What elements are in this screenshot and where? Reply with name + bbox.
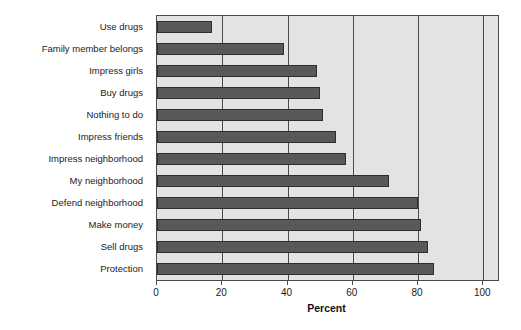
- bar-row: [157, 236, 498, 258]
- bar: [157, 43, 284, 55]
- bar-row: [157, 82, 498, 104]
- bar-chart-figure: Use drugsFamily member belongsImpress gi…: [0, 0, 521, 330]
- category-label: My neighborhood: [0, 169, 150, 191]
- bar-row: [157, 60, 498, 82]
- tick-mark: [287, 280, 288, 285]
- category-label: Buy drugs: [0, 81, 150, 103]
- category-label: Use drugs: [0, 15, 150, 37]
- bar: [157, 131, 336, 143]
- bar-row: [157, 192, 498, 214]
- category-label: Impress neighborhood: [0, 147, 150, 169]
- bar-row: [157, 16, 498, 38]
- tick-label: 20: [216, 287, 227, 298]
- tick-mark: [221, 280, 222, 285]
- tick-label: 40: [281, 287, 292, 298]
- bar: [157, 21, 212, 33]
- tick-mark: [482, 280, 483, 285]
- bar-row: [157, 126, 498, 148]
- bar-row: [157, 148, 498, 170]
- tick-label: 100: [474, 287, 491, 298]
- category-label: Family member belongs: [0, 37, 150, 59]
- category-label: Nothing to do: [0, 103, 150, 125]
- category-label: Impress girls: [0, 59, 150, 81]
- plot-area: [156, 15, 499, 281]
- bar: [157, 219, 421, 231]
- tick-label: 0: [153, 287, 159, 298]
- category-label: Protection: [0, 257, 150, 279]
- category-label: Impress friends: [0, 125, 150, 147]
- bar-series: [157, 16, 498, 280]
- bar: [157, 175, 389, 187]
- bar: [157, 109, 323, 121]
- bar: [157, 263, 434, 275]
- tick-mark: [417, 280, 418, 285]
- bar-row: [157, 104, 498, 126]
- bar-row: [157, 258, 498, 280]
- bar: [157, 241, 428, 253]
- bar-row: [157, 38, 498, 60]
- category-label: Make money: [0, 213, 150, 235]
- bar: [157, 197, 418, 209]
- category-axis: Use drugsFamily member belongsImpress gi…: [0, 15, 150, 279]
- x-axis-title: Percent: [307, 302, 346, 314]
- category-label: Defend neighborhood: [0, 191, 150, 213]
- bar: [157, 153, 346, 165]
- x-axis: 020406080100 Percent: [156, 280, 497, 325]
- bar-row: [157, 214, 498, 236]
- tick-label: 80: [411, 287, 422, 298]
- tick-label: 60: [346, 287, 357, 298]
- bar: [157, 65, 317, 77]
- bar: [157, 87, 320, 99]
- category-label: Sell drugs: [0, 235, 150, 257]
- bar-row: [157, 170, 498, 192]
- tick-mark: [352, 280, 353, 285]
- tick-mark: [156, 280, 157, 285]
